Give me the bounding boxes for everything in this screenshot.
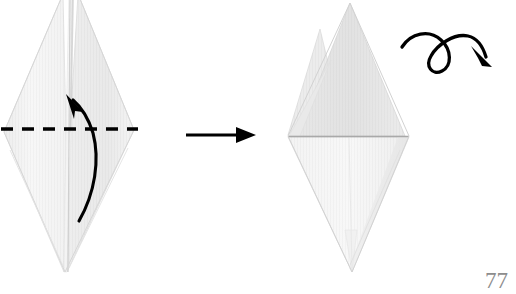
annotation-layer xyxy=(0,0,516,294)
step-transition-arrow xyxy=(186,127,256,143)
valley-fold-curved-arrow xyxy=(66,94,96,221)
origami-diagram-page: 77 xyxy=(0,0,516,294)
page-number: 77 xyxy=(485,269,508,292)
turn-over-loop-arrow xyxy=(402,34,492,73)
